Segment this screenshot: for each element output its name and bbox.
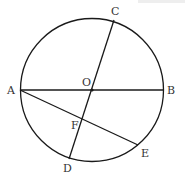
label-d: D	[63, 162, 72, 175]
label-f: F	[71, 119, 79, 132]
geometry-diagram: A B C D E O F	[0, 0, 185, 179]
label-c: C	[111, 5, 119, 18]
label-o: O	[82, 76, 91, 89]
label-b: B	[167, 84, 175, 97]
label-a: A	[6, 84, 16, 97]
label-e: E	[141, 147, 149, 160]
